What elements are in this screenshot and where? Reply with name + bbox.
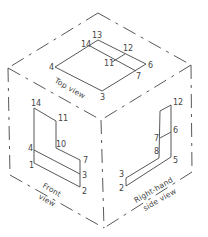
right-label-7: 7 <box>154 134 159 143</box>
top-label-3: 3 <box>100 93 105 102</box>
front-label-14: 14 <box>31 99 41 108</box>
front-label-2: 2 <box>82 187 87 196</box>
front-label-10: 10 <box>56 140 66 149</box>
edge-right-vertical <box>191 65 192 172</box>
front-view: 14 11 10 4 7 1 3 2 Front view <box>28 99 88 209</box>
top-label-11: 11 <box>104 59 114 68</box>
edge-bottom-left <box>10 175 104 228</box>
top-label-14: 14 <box>81 40 91 49</box>
top-view-caption: Top view <box>52 75 87 100</box>
top-label-13: 13 <box>92 31 102 40</box>
right-label-12: 12 <box>173 98 183 107</box>
right-label-5: 5 <box>173 156 178 165</box>
top-label-7: 7 <box>136 72 141 81</box>
right-side-view: 12 6 7 8 5 3 2 Right-hand side view <box>119 98 183 213</box>
right-label-6: 6 <box>173 126 178 135</box>
front-label-1: 1 <box>29 161 34 170</box>
edge-bottom-right <box>104 172 192 228</box>
edge-center-vertical <box>101 120 104 228</box>
top-view: 13 14 12 11 4 6 7 3 Top view <box>49 31 153 102</box>
right-label-8: 8 <box>154 147 159 156</box>
isometric-glass-box-diagram: 13 14 12 11 4 6 7 3 Top view 14 11 10 4 … <box>0 0 208 237</box>
front-label-7: 7 <box>83 156 88 165</box>
edge-top-right <box>98 13 191 65</box>
top-label-6: 6 <box>148 61 153 70</box>
right-view-outline <box>126 105 171 186</box>
front-label-3: 3 <box>82 171 87 180</box>
front-label-11: 11 <box>58 114 68 123</box>
right-label-3: 3 <box>119 170 124 179</box>
top-label-12: 12 <box>123 44 133 53</box>
right-label-2: 2 <box>119 184 124 193</box>
edge-left-vertical <box>8 68 10 175</box>
edge-top-front-right <box>101 65 191 120</box>
right-view-line-7-6 <box>160 132 171 138</box>
front-label-4: 4 <box>28 144 33 153</box>
front-view-line-4-3 <box>34 150 80 174</box>
top-label-4: 4 <box>49 63 54 72</box>
edge-top-front-left <box>8 68 101 120</box>
